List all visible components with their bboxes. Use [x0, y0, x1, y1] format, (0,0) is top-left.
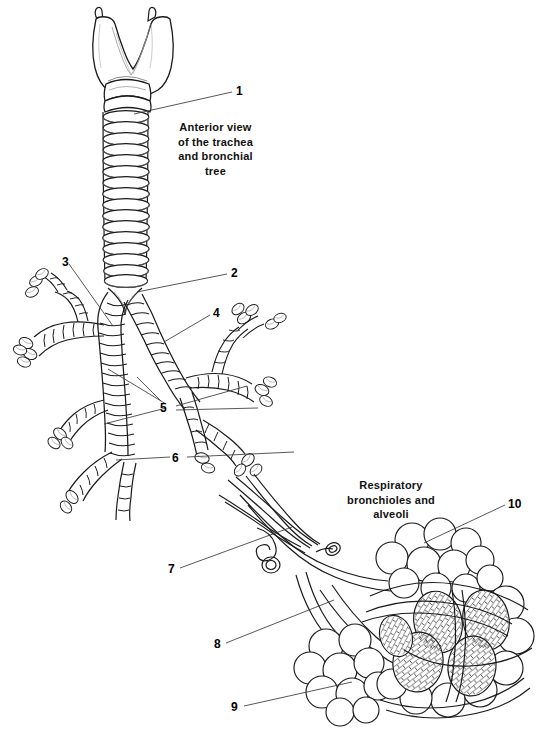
callout-label-4: 4 [213, 307, 220, 319]
anatomy-illustration [0, 0, 551, 738]
callout-label-9: 9 [231, 701, 238, 713]
callout-label-8: 8 [214, 638, 221, 650]
callout-label-10: 10 [508, 498, 521, 510]
caption-alveoli: Respiratory bronchioles and alveoli [336, 478, 446, 522]
callout-label-7: 7 [168, 563, 175, 575]
callout-label-3: 3 [62, 256, 69, 268]
cricoid-cartilage [104, 80, 151, 113]
callout-label-2: 2 [231, 267, 238, 279]
callout-label-1: 1 [236, 85, 243, 97]
trachea-cartilage-rings [103, 111, 150, 288]
caption-trachea: Anterior view of the trachea and bronchi… [163, 120, 268, 178]
callout-label-6: 6 [172, 452, 179, 464]
callout-label-5: 5 [160, 402, 167, 414]
figure-canvas: Anterior view of the trachea and bronchi… [0, 0, 551, 738]
